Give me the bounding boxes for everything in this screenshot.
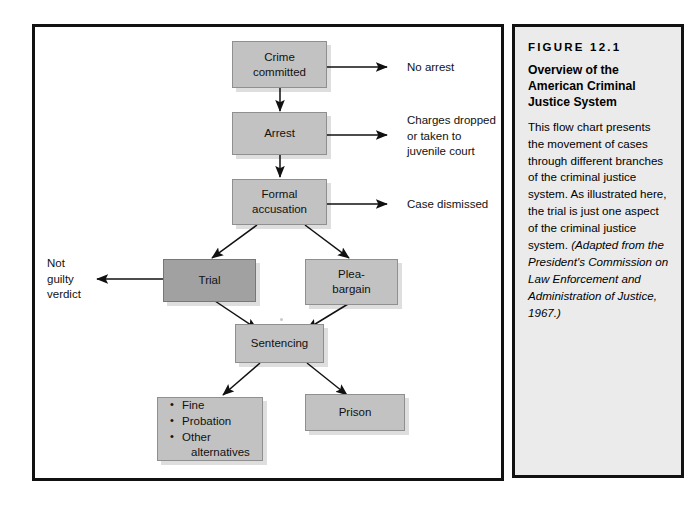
label-case-dismissed: Case dismissed	[407, 197, 488, 213]
node-sentencing[interactable]: Sentencing	[235, 324, 324, 363]
caption-body: This flow chart presents the movement of…	[528, 119, 669, 322]
node-prison-label: Prison	[339, 405, 372, 420]
list-item-other: Otheralternatives	[170, 430, 250, 460]
node-trial-label: Trial	[199, 273, 221, 288]
figure-title: Overview of the American Criminal Justic…	[528, 62, 669, 111]
flow-arrow-layer	[35, 27, 501, 478]
node-formal-accusation-label: Formal accusation	[252, 187, 307, 216]
node-plea-bargain[interactable]: Plea- bargain	[305, 259, 398, 305]
node-crime-committed[interactable]: Crime committed	[232, 41, 327, 88]
label-not-guilty-verdict: Not guilty verdict	[47, 256, 81, 303]
print-speck	[280, 318, 283, 321]
caption-panel: FIGURE 12.1 Overview of the American Cri…	[512, 24, 684, 478]
figure-panel: Crime committed Arrest Formal accusation…	[32, 24, 504, 481]
node-prison[interactable]: Prison	[305, 394, 405, 431]
caption-body-text: This flow chart presents the movement of…	[528, 120, 667, 251]
node-crime-committed-label: Crime committed	[253, 50, 306, 79]
node-sentencing-label: Sentencing	[251, 336, 309, 351]
label-charges-dropped: Charges dropped or taken to juvenile cou…	[407, 113, 496, 160]
node-arrest-label: Arrest	[264, 126, 295, 141]
node-alternatives[interactable]: Fine Probation Otheralternatives	[157, 397, 263, 461]
alternatives-list: Fine Probation Otheralternatives	[170, 397, 250, 462]
node-arrest[interactable]: Arrest	[232, 112, 327, 155]
list-item-fine: Fine	[170, 398, 250, 413]
list-item-other-continuation: alternatives	[182, 445, 250, 460]
list-item-probation: Probation	[170, 414, 250, 429]
node-trial[interactable]: Trial	[163, 259, 256, 302]
label-no-arrest: No arrest	[407, 60, 454, 76]
node-plea-bargain-label: Plea- bargain	[332, 267, 370, 296]
node-formal-accusation[interactable]: Formal accusation	[232, 179, 327, 225]
figure-number: FIGURE 12.1	[528, 41, 669, 53]
list-item-other-label: Other	[182, 431, 211, 443]
